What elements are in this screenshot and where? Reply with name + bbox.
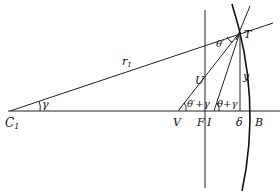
label-U: U bbox=[195, 74, 205, 87]
label-V: V bbox=[173, 116, 182, 129]
label-theta-prime: θ′ bbox=[216, 38, 225, 49]
label-C1: C1 bbox=[5, 116, 19, 131]
label-y: y bbox=[242, 70, 250, 83]
label-gamma: γ bbox=[42, 98, 49, 111]
label-r1: r1 bbox=[122, 55, 132, 69]
angle-theta-prime-gamma-arc bbox=[184, 103, 186, 111]
optics-diagram: C1 γ r1 V F I δ B T U y θ′ θ′+γ θ+γ bbox=[0, 0, 280, 193]
label-B: B bbox=[254, 116, 263, 129]
label-I: I bbox=[206, 116, 212, 129]
label-theta-prime-plus-gamma: θ′+γ bbox=[187, 98, 210, 109]
label-delta: δ bbox=[236, 116, 243, 129]
angle-gamma-arc bbox=[39, 101, 40, 111]
label-theta-plus-gamma: θ+γ bbox=[217, 98, 237, 109]
label-F: F bbox=[196, 116, 205, 129]
